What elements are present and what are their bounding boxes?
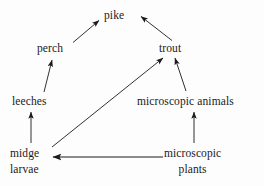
node-perch: perch [37,41,63,56]
node-microscopic-plants-line-1: microscopic [164,145,221,161]
node-midge-larvae-line-1: midge [10,145,39,161]
edge-perch-to-pike [73,21,99,43]
edge-microscopic-animals-to-trout [175,58,186,91]
node-trout: trout [159,41,181,56]
node-midge-larvae: midge larvae [10,145,39,177]
node-midge-larvae-line-2: larvae [10,161,39,177]
node-microscopic-plants-line-2: plants [164,161,221,177]
diagram-arrows-layer [0,0,264,186]
node-pike: pike [104,8,124,23]
node-microscopic-animals: microscopic animals [137,94,234,109]
node-microscopic-plants: microscopic plants [164,145,221,177]
node-leeches: leeches [12,94,47,109]
edge-leeches-to-perch [44,60,52,92]
food-web-diagram: pike perch trout leeches microscopic ani… [0,0,264,186]
edge-trout-to-pike [141,17,172,41]
